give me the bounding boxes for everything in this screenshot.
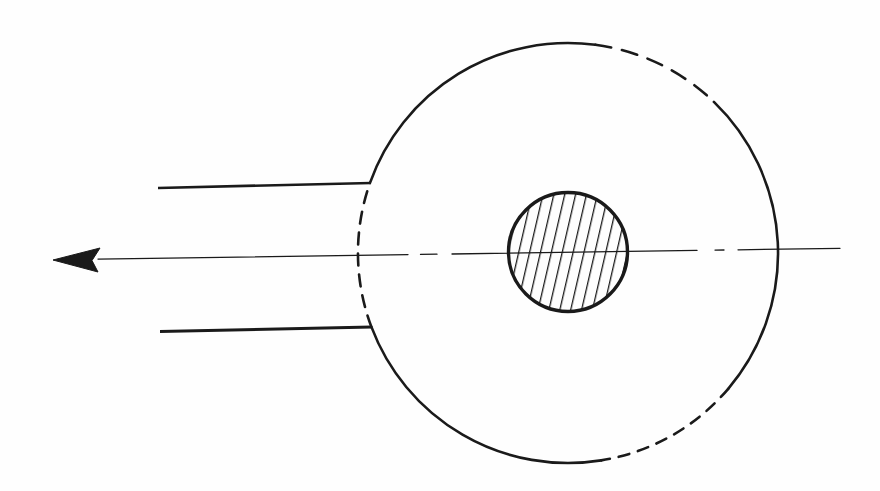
flow-diagram-svg xyxy=(0,0,880,491)
diagram-page xyxy=(0,0,880,491)
paper-background xyxy=(0,0,880,491)
